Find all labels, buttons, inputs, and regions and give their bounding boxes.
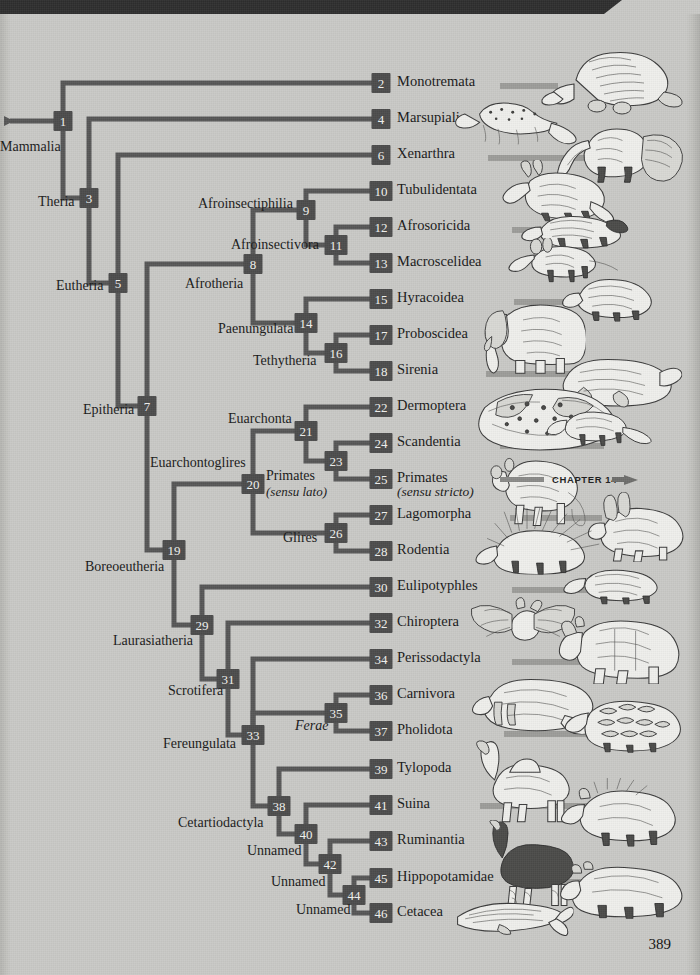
leaf-label-xenarthra[interactable]: Xenarthra — [397, 146, 455, 161]
leaf-name: Tubulidentata — [397, 181, 477, 197]
clade-label-laurasiatheria: Laurasiatheria — [113, 633, 193, 649]
node-box-15[interactable]: 15 — [370, 289, 393, 309]
node-box-22[interactable]: 22 — [370, 397, 393, 417]
node-box-29[interactable]: 29 — [191, 615, 214, 635]
node-box-21[interactable]: 21 — [295, 421, 318, 441]
node-box-16[interactable]: 16 — [325, 343, 348, 363]
node-box-8[interactable]: 8 — [244, 254, 263, 274]
node-box-18[interactable]: 18 — [370, 361, 393, 381]
node-number-20: 20 — [247, 477, 260, 492]
node-box-45[interactable]: 45 — [370, 868, 393, 888]
node-box-32[interactable]: 32 — [370, 613, 393, 633]
node-box-37[interactable]: 37 — [370, 721, 393, 741]
leaf-label-chiroptera[interactable]: Chiroptera — [397, 614, 459, 629]
clade-label-unnamed: Unnamed — [296, 902, 350, 918]
node-number-40: 40 — [300, 827, 313, 842]
node-number-22: 22 — [375, 400, 388, 415]
clade-label-afrotheria: Afrotheria — [185, 276, 243, 292]
chapter-pointer[interactable]: CHAPTER 14 — [552, 474, 617, 485]
leaf-label-hippopotamidae[interactable]: Hippopotamidae — [397, 869, 494, 884]
node-box-17[interactable]: 17 — [370, 325, 393, 345]
node-number-30: 30 — [375, 580, 388, 595]
leaf-label-proboscidea[interactable]: Proboscidea — [397, 326, 468, 341]
node-number-35: 35 — [330, 706, 343, 721]
leaf-name: Pholidota — [397, 721, 453, 737]
node-box-25[interactable]: 25 — [370, 469, 393, 489]
clade-name: Fereungulata — [163, 736, 236, 751]
leaf-label-lagomorpha[interactable]: Lagomorpha — [397, 506, 471, 521]
clade-label-scrotifera: Scrotifera — [168, 683, 223, 699]
node-box-12[interactable]: 12 — [370, 217, 393, 237]
clade-name: Afroinsectiphilia — [198, 196, 293, 211]
clade-label-glires: Glires — [283, 530, 317, 546]
branch-3-5 — [89, 198, 118, 283]
leaf-label-dermoptera[interactable]: Dermoptera — [397, 398, 466, 413]
node-number-1: 1 — [60, 114, 67, 129]
chapter-pointer-label: CHAPTER 14 — [552, 474, 617, 485]
node-box-36[interactable]: 36 — [370, 685, 393, 705]
leaf-label-marsupialia[interactable]: Marsupialia — [397, 110, 466, 125]
node-box-27[interactable]: 27 — [370, 505, 393, 525]
node-box-43[interactable]: 43 — [370, 831, 393, 851]
clade-label-paenungulata: Paenungulata — [218, 321, 293, 337]
leaf-label-pholidota[interactable]: Pholidota — [397, 722, 453, 737]
node-number-14: 14 — [300, 316, 314, 331]
leaf-label-eulipotyphles[interactable]: Eulipotyphles — [397, 578, 478, 593]
leaf-label-carnivora[interactable]: Carnivora — [397, 686, 455, 701]
leaf-label-rodentia[interactable]: Rodentia — [397, 542, 449, 557]
node-box-2[interactable]: 2 — [372, 73, 391, 93]
leaf-label-tylopoda[interactable]: Tylopoda — [397, 760, 452, 775]
leaf-name: Rodentia — [397, 541, 449, 557]
node-box-28[interactable]: 28 — [370, 541, 393, 561]
node-box-7[interactable]: 7 — [138, 396, 157, 416]
node-box-38[interactable]: 38 — [268, 796, 291, 816]
node-box-42[interactable]: 42 — [319, 854, 342, 874]
leaf-name: Xenarthra — [397, 145, 455, 161]
node-box-26[interactable]: 26 — [325, 523, 348, 543]
clade-name: Afrotheria — [185, 276, 243, 291]
clade-label-boreoeutheria: Boreoeutheria — [85, 559, 164, 575]
node-box-40[interactable]: 40 — [295, 824, 318, 844]
branch-29-30 — [202, 587, 381, 625]
node-box-39[interactable]: 39 — [370, 759, 393, 779]
leaf-label-scandentia[interactable]: Scandentia — [397, 434, 461, 449]
node-number-23: 23 — [330, 454, 343, 469]
leaf-label-sirenia[interactable]: Sirenia — [397, 362, 438, 377]
node-box-10[interactable]: 10 — [370, 181, 393, 201]
leaf-label-primates[interactable]: Primates(sensu stricto) — [397, 470, 474, 500]
leaf-label-perissodactyla[interactable]: Perissodactyla — [397, 650, 481, 665]
leaf-label-macroscelidea[interactable]: Macroscelidea — [397, 254, 482, 269]
leaf-rule — [480, 803, 604, 809]
node-box-1[interactable]: 1 — [54, 111, 73, 131]
node-box-41[interactable]: 41 — [370, 795, 393, 815]
clade-label-afroinsectivora: Afroinsectivora — [231, 237, 319, 253]
leaf-label-suina[interactable]: Suina — [397, 796, 430, 811]
node-box-4[interactable]: 4 — [372, 109, 391, 129]
node-box-33[interactable]: 33 — [242, 725, 265, 745]
leaf-name: Perissodactyla — [397, 649, 481, 665]
node-box-19[interactable]: 19 — [163, 540, 186, 560]
leaf-label-afrosoricida[interactable]: Afrosoricida — [397, 218, 470, 233]
leaf-label-ruminantia[interactable]: Ruminantia — [397, 832, 465, 847]
node-box-34[interactable]: 34 — [370, 649, 393, 669]
node-box-30[interactable]: 30 — [370, 577, 393, 597]
node-box-5[interactable]: 5 — [109, 273, 128, 293]
node-box-24[interactable]: 24 — [370, 433, 393, 453]
node-box-20[interactable]: 20 — [242, 474, 265, 494]
node-number-3: 3 — [86, 191, 93, 206]
node-box-14[interactable]: 14 — [295, 313, 318, 333]
leaf-label-cetacea[interactable]: Cetacea — [397, 904, 443, 919]
node-box-13[interactable]: 13 — [370, 253, 393, 273]
node-box-6[interactable]: 6 — [372, 145, 391, 165]
leaf-label-tubulidentata[interactable]: Tubulidentata — [397, 182, 477, 197]
node-box-9[interactable]: 9 — [297, 200, 316, 220]
clade-label-mammalia: Mammalia — [0, 139, 61, 155]
leaf-name: Ruminantia — [397, 831, 465, 847]
node-box-11[interactable]: 11 — [325, 235, 348, 255]
node-box-23[interactable]: 23 — [325, 451, 348, 471]
node-box-3[interactable]: 3 — [80, 188, 99, 208]
leaf-label-hyracoidea[interactable]: Hyracoidea — [397, 290, 464, 305]
leaf-label-monotremata[interactable]: Monotremata — [397, 74, 475, 89]
node-number-6: 6 — [378, 148, 385, 163]
node-box-46[interactable]: 46 — [370, 903, 393, 923]
